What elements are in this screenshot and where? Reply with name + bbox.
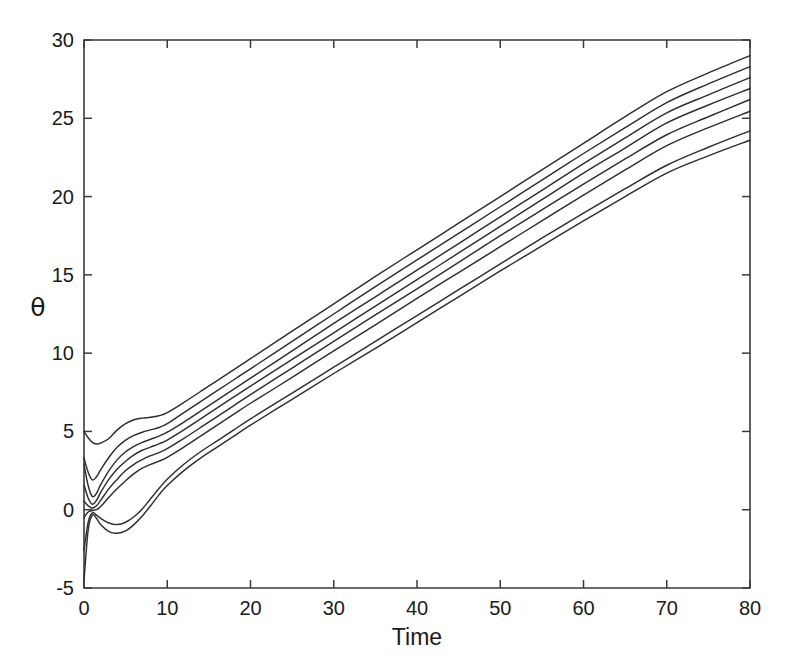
figure-container: 01020304050607080 -5051015202530 Time θ: [0, 0, 787, 668]
x-axis-title: Time: [392, 624, 442, 650]
x-tick-label: 20: [239, 597, 261, 619]
x-tick-label: 70: [656, 597, 678, 619]
x-tick-label: 40: [406, 597, 428, 619]
y-tick-label: 30: [52, 29, 74, 51]
x-tick-label: 0: [78, 597, 89, 619]
y-axis-tick-labels: -5051015202530: [52, 29, 74, 599]
x-tick-label: 60: [572, 597, 594, 619]
x-tick-label: 80: [739, 597, 761, 619]
y-tick-label: 0: [63, 499, 74, 521]
line-chart: 01020304050607080 -5051015202530 Time θ: [0, 0, 787, 668]
x-tick-label: 30: [323, 597, 345, 619]
y-tick-label: 5: [63, 420, 74, 442]
x-tick-label: 10: [156, 597, 178, 619]
y-tick-label: 15: [52, 264, 74, 286]
y-tick-label: 20: [52, 186, 74, 208]
x-axis-tick-labels: 01020304050607080: [78, 597, 761, 619]
x-tick-label: 50: [489, 597, 511, 619]
y-tick-label: 25: [52, 107, 74, 129]
y-tick-label: -5: [56, 577, 74, 599]
y-axis-title: θ: [30, 293, 45, 322]
y-tick-label: 10: [52, 342, 74, 364]
